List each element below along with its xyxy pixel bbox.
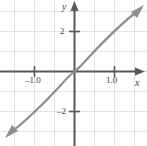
x-axis-label: x: [135, 78, 139, 88]
y-axis-arrowhead: [71, 1, 79, 11]
y-tick-label-neg-two: –2: [57, 107, 66, 116]
y-tick-label-pos-two: 2: [60, 27, 65, 36]
graph-figure: x y –1.0 1.0 2 –2: [0, 0, 147, 146]
coordinate-plane: [0, 0, 147, 146]
x-tick-label-pos-one: 1.0: [106, 76, 117, 85]
y-axis-label: y: [62, 2, 66, 12]
x-axis-arrowhead: [135, 68, 145, 76]
x-axis: [0, 66, 145, 77]
x-tick-label-neg-one: –1.0: [25, 76, 41, 85]
